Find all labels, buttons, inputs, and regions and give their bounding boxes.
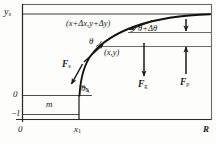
theta0-sub: 0 xyxy=(85,87,88,93)
x1-tick-sub: 1 xyxy=(78,128,81,134)
point-upper-label: (x+Δx,y+Δy) xyxy=(66,19,110,28)
force-fs-sub: s xyxy=(68,62,71,69)
y-axis-label: ys xyxy=(4,7,11,18)
figure-canvas: ys 0 −l 0 x1 R m (x+Δx,y+Δy) (x,y) θ θ+Δ… xyxy=(0,0,216,144)
y-neg-l-label: −l xyxy=(11,109,20,118)
theta-label: θ xyxy=(89,37,93,46)
y-zero-label: 0 xyxy=(13,90,18,99)
force-fp-label: Fp xyxy=(180,78,190,88)
mass-label: m xyxy=(46,100,53,109)
x1-tick-label: x1 xyxy=(74,125,81,134)
force-fg-label: Fg xyxy=(138,80,148,90)
theta-delta-label: θ+Δθ xyxy=(138,24,157,33)
force-fs-label: Fs xyxy=(62,60,71,70)
origin-label: 0 xyxy=(18,125,23,134)
force-fp-sub: p xyxy=(186,80,189,87)
x-axis-label: R xyxy=(203,125,209,134)
y-axis-label-sub: s xyxy=(8,10,11,17)
tangent-arrow-lower xyxy=(84,45,103,63)
point-lower-label: (x,y) xyxy=(104,48,119,57)
force-fg-sub: g xyxy=(144,82,147,89)
theta0-label: θ0 xyxy=(81,84,88,93)
